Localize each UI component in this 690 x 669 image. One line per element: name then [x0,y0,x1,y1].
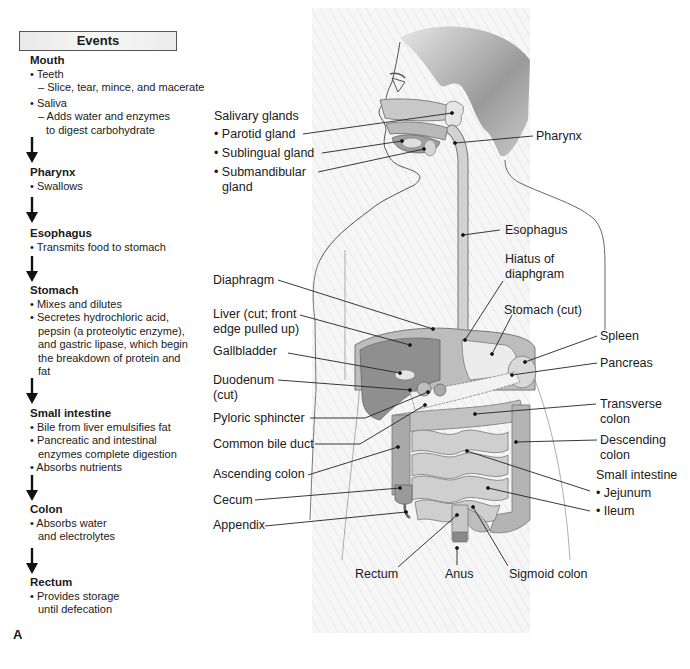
label-ascending-colon: Ascending colon [213,467,305,482]
label-esophagus: Esophagus [505,223,568,238]
label-pharynx: Pharynx [536,129,582,144]
label-stomach: Stomach (cut) [504,303,582,318]
label-parotid-gland: Parotid gland [214,127,296,142]
label-common-bile-duct: Common bile duct [213,437,314,452]
label-liver-cont: edge pulled up) [213,322,299,337]
label-hiatus-of-diaphragm: Hiatus of [505,252,554,267]
label-salivary-glands: Salivary glands [214,109,299,124]
label-sigmoid-colon: Sigmoid colon [509,567,588,582]
label-small-intestine: Small intestine [596,468,677,483]
label-cecum: Cecum [213,493,253,508]
label-pyloric-sphincter: Pyloric sphincter [213,411,305,426]
label-descending-colon-cont: colon [600,448,630,463]
label-gallbladder: Gallbladder [213,344,277,359]
label-transverse-colon: Transverse [600,397,662,412]
label-sublingual-gland: Sublingual gland [214,146,314,161]
label-submandibular-gland-cont: gland [222,180,253,195]
label-transverse-colon-cont: colon [600,412,630,427]
label-diaphragm: Diaphragm [213,273,274,288]
label-rectum: Rectum [355,567,398,582]
label-descending-colon: Descending [600,433,666,448]
label-duodenum: Duodenum [213,373,274,388]
label-ileum: Ileum [596,504,634,519]
label-submandibular-gland: Submandibular [214,165,306,180]
label-jejunum: Jejunum [596,486,651,501]
digestive-system-figure: Salivary glands Parotid gland Sublingual… [0,0,690,669]
label-hiatus-of-diaphragm-cont: diaphgram [505,267,564,282]
label-anus: Anus [445,567,474,582]
label-pancreas: Pancreas [600,356,653,371]
label-liver: Liver (cut; front [213,307,296,322]
label-appendix: Appendix [213,518,265,533]
label-duodenum-cont: (cut) [213,388,238,403]
label-spleen: Spleen [600,329,639,344]
